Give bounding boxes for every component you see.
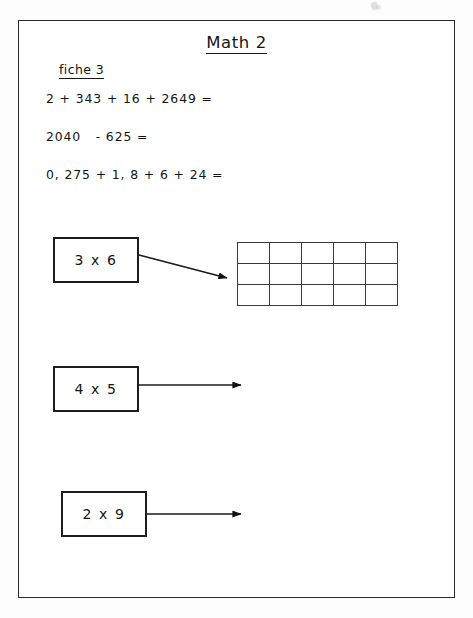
worksheet-page: Math 2 fiche 3 2 + 343 + 16 + 2649 = 204… [0, 0, 473, 618]
answer-grid-cell[interactable] [366, 264, 398, 285]
answer-grid-cell[interactable] [366, 285, 398, 306]
answer-grid-cell[interactable] [302, 243, 334, 264]
page-title-text: Math 2 [206, 33, 267, 54]
answer-grid-row [238, 264, 398, 285]
multiplication-label-2x9: 2 x 9 [83, 506, 126, 522]
answer-grid-cell[interactable] [334, 243, 366, 264]
exercise-decimal-addition-1: 0, 275 + 1, 8 + 6 + 24 = [46, 167, 223, 182]
answer-grid-cell[interactable] [238, 285, 270, 306]
worksheet-frame: Math 2 fiche 3 2 + 343 + 16 + 2649 = 204… [18, 20, 455, 598]
answer-grid-cell[interactable] [334, 285, 366, 306]
sheet-number-text: fiche 3 [59, 62, 104, 79]
answer-grid-row [238, 243, 398, 264]
answer-grid-cell[interactable] [238, 264, 270, 285]
multiplication-label-3x6: 3 x 6 [75, 252, 118, 268]
answer-grid-cell[interactable] [238, 243, 270, 264]
answer-grid-cell[interactable] [366, 243, 398, 264]
exercise-addition-1: 2 + 343 + 16 + 2649 = [46, 91, 213, 106]
multiplication-box-3x6: 3 x 6 [53, 237, 139, 283]
answer-grid-cell[interactable] [302, 285, 334, 306]
answer-grid-cell[interactable] [334, 264, 366, 285]
answer-grid [237, 242, 398, 306]
multiplication-box-2x9: 2 x 9 [61, 491, 147, 537]
arrow-3x6-to-grid [139, 255, 227, 278]
answer-grid-row [238, 285, 398, 306]
answer-grid-body [238, 243, 398, 306]
sheet-number-label: fiche 3 [59, 62, 104, 77]
answer-grid-cell[interactable] [302, 264, 334, 285]
answer-grid-cell[interactable] [270, 243, 302, 264]
answer-grid-cell[interactable] [270, 264, 302, 285]
page-title: Math 2 [19, 33, 454, 52]
exercise-subtraction-1: 2040 - 625 = [46, 129, 148, 144]
scan-artifact-speckle-secondary [375, 4, 381, 10]
multiplication-label-4x5: 4 x 5 [75, 381, 118, 397]
multiplication-box-4x5: 4 x 5 [53, 366, 139, 412]
answer-grid-cell[interactable] [270, 285, 302, 306]
